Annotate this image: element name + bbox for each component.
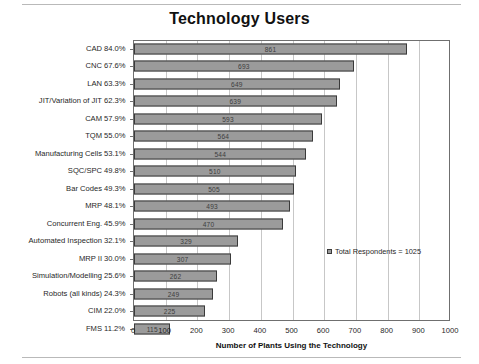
bar-rows: CAD84.0%861CNC67.6%693LAN63.3%649JIT/Var… <box>0 40 479 321</box>
percent-label: 32.1% <box>104 236 130 246</box>
percent-label: 49.3% <box>104 184 130 194</box>
x-tick-label: 500 <box>285 326 298 335</box>
bar-container: 249 <box>134 288 213 299</box>
bar[interactable]: 861 <box>134 43 407 54</box>
bar-container: 649 <box>134 78 340 89</box>
bar-container: 307 <box>134 253 231 264</box>
percent-label: 30.0% <box>104 254 130 264</box>
bar-value-label: 649 <box>231 80 243 87</box>
bar-row: JIT/Variation of JIT62.3%639 <box>0 93 479 111</box>
percent-label: 63.3% <box>104 79 130 89</box>
legend-swatch-icon <box>327 249 332 254</box>
bar-value-label: 861 <box>265 45 277 52</box>
bar-container: 861 <box>134 43 407 54</box>
bar[interactable]: 510 <box>134 166 296 177</box>
bar-row: Simulation/Modelling25.6%262 <box>0 268 479 286</box>
category-label: Robots (all kinds) <box>0 289 102 299</box>
bar[interactable]: 564 <box>134 131 313 142</box>
bar-row: TQM55.0%564 <box>0 128 479 146</box>
bar-value-label: 639 <box>229 98 241 105</box>
bar-container: 225 <box>134 306 205 317</box>
bar-container: 693 <box>134 61 354 72</box>
bar-value-label: 564 <box>218 133 230 140</box>
bar-row: Concurrent Eng.45.9%470 <box>0 215 479 233</box>
bar-container: 262 <box>134 271 217 282</box>
percent-label: 49.8% <box>104 166 130 176</box>
bar-row: SQC/SPC49.8%510 <box>0 163 479 181</box>
legend-label: Total Respondents = 1025 <box>335 247 421 256</box>
x-tick-label: 200 <box>190 326 203 335</box>
chart-legend: Total Respondents = 1025 <box>327 247 421 256</box>
bar[interactable]: 593 <box>134 113 322 124</box>
category-label: MRP <box>0 201 102 211</box>
bar[interactable]: 307 <box>134 253 231 264</box>
bar[interactable]: 249 <box>134 288 213 299</box>
percent-label: 25.6% <box>104 271 130 281</box>
category-label: Manufacturing Cells <box>0 149 102 159</box>
bar[interactable]: 493 <box>134 201 290 212</box>
percent-label: 45.9% <box>104 219 130 229</box>
bar-container: 544 <box>134 148 306 159</box>
bar-container: 593 <box>134 113 322 124</box>
category-label: TQM <box>0 131 102 141</box>
bar[interactable]: 262 <box>134 271 217 282</box>
bar-row: LAN63.3%649 <box>0 75 479 93</box>
bar-value-label: 510 <box>209 168 221 175</box>
category-label: JIT/Variation of JIT <box>0 96 102 106</box>
bar[interactable]: 470 <box>134 218 283 229</box>
percent-label: 84.0% <box>104 44 130 54</box>
page-rule-top <box>22 4 461 5</box>
bar-value-label: 262 <box>170 273 182 280</box>
bar-value-label: 225 <box>164 308 176 315</box>
x-tick-label: 900 <box>412 326 425 335</box>
bar-chart: CAD84.0%861CNC67.6%693LAN63.3%649JIT/Var… <box>0 38 479 328</box>
bar[interactable]: 639 <box>134 96 337 107</box>
bar[interactable]: 329 <box>134 236 238 247</box>
category-label: CIM <box>0 306 102 316</box>
bar[interactable]: 649 <box>134 78 340 89</box>
x-tick-label: 400 <box>253 326 266 335</box>
bar-container: 639 <box>134 96 337 107</box>
x-tick-label: 800 <box>380 326 393 335</box>
bar-value-label: 493 <box>206 203 218 210</box>
category-label: Simulation/Modelling <box>0 271 102 281</box>
category-label: SQC/SPC <box>0 166 102 176</box>
bar-container: 505 <box>134 183 294 194</box>
bar-container: 564 <box>134 131 313 142</box>
bar-row: CNC67.6%693 <box>0 58 479 76</box>
category-label: LAN <box>0 79 102 89</box>
bar-value-label: 329 <box>180 238 192 245</box>
x-axis-title: Number of Plants Using the Technology <box>133 341 450 350</box>
percent-label: 53.1% <box>104 149 130 159</box>
percent-label: 24.3% <box>104 289 130 299</box>
x-tick-label: 600 <box>317 326 330 335</box>
page-rule-bottom <box>22 357 461 358</box>
bar[interactable]: 225 <box>134 306 205 317</box>
bar-value-label: 544 <box>214 150 226 157</box>
category-label: Automated Inspection <box>0 236 102 246</box>
bar-value-label: 505 <box>208 185 220 192</box>
category-label: Bar Codes <box>0 184 102 194</box>
percent-label: 62.3% <box>104 96 130 106</box>
bar-container: 493 <box>134 201 290 212</box>
percent-label: 55.0% <box>104 131 130 141</box>
page-title: Technology Users <box>0 10 479 28</box>
bar-row: Bar Codes49.3%505 <box>0 180 479 198</box>
x-tick-label: 100 <box>158 326 171 335</box>
percent-label: 67.6% <box>104 61 130 71</box>
x-tick-label: 700 <box>349 326 362 335</box>
category-label: CNC <box>0 61 102 71</box>
bar-container: 470 <box>134 218 283 229</box>
percent-label: 48.1% <box>104 201 130 211</box>
x-tick-label: 1000 <box>442 326 459 335</box>
bar[interactable]: 505 <box>134 183 294 194</box>
x-tick-label: 300 <box>222 326 235 335</box>
x-axis-ticks: 01002003004005006007008009001000 <box>0 326 479 338</box>
category-label: CAM <box>0 114 102 124</box>
bar[interactable]: 544 <box>134 148 306 159</box>
bar-row: CAD84.0%861 <box>0 40 479 58</box>
x-tick-label: 0 <box>131 326 135 335</box>
bar[interactable]: 693 <box>134 61 354 72</box>
category-label: Concurrent Eng. <box>0 219 102 229</box>
bar-value-label: 693 <box>238 63 250 70</box>
